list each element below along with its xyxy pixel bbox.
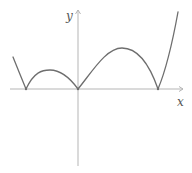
zero-point-right <box>157 88 159 90</box>
curve-right-arch <box>78 48 158 89</box>
curve-left-branch <box>13 57 26 89</box>
graph-canvas <box>0 0 192 173</box>
function-graph: y x <box>0 0 192 173</box>
curve-right-branch <box>158 12 178 89</box>
curve-left-arch <box>26 70 78 89</box>
zero-point-left <box>25 88 27 90</box>
y-axis-label: y <box>66 10 73 22</box>
zero-point-origin <box>77 88 79 90</box>
x-axis-label: x <box>177 96 184 108</box>
